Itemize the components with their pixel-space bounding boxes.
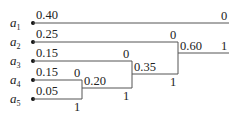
huffman-tree-diagram: a1 a2 a3 a4 a5 0.40 0.25 0.15 0.15 0.05 xyxy=(0,0,241,114)
tree-edges xyxy=(33,23,229,99)
bit-020-upper: 0 xyxy=(74,66,80,80)
symbol-a1: a1 xyxy=(10,15,21,32)
symbol-labels: a1 a2 a3 a4 a5 xyxy=(10,15,21,108)
prob-a4: 0.15 xyxy=(36,65,58,79)
bit-035-upper: 0 xyxy=(123,47,129,61)
bit-060-upper: 0 xyxy=(170,28,176,42)
prob-a5: 0.05 xyxy=(36,84,58,98)
merge-value-060: 0.60 xyxy=(180,39,202,53)
symbol-a4: a4 xyxy=(10,72,21,89)
symbol-a5: a5 xyxy=(10,91,21,108)
prob-a2: 0.25 xyxy=(36,27,58,41)
symbol-a2: a2 xyxy=(10,34,21,51)
symbol-a3: a3 xyxy=(10,53,21,70)
probabilities: 0.40 0.25 0.15 0.15 0.05 xyxy=(36,8,58,98)
prob-a1: 0.40 xyxy=(36,8,58,22)
bit-035-lower: 1 xyxy=(123,89,129,103)
bit-060-lower: 1 xyxy=(170,75,176,89)
bit-020-lower: 1 xyxy=(74,100,80,114)
merge-value-035: 0.35 xyxy=(134,60,156,74)
prob-a3: 0.15 xyxy=(36,46,58,60)
merge-values: 0.20 0.35 0.60 xyxy=(84,39,202,88)
bit-root-lower: 1 xyxy=(221,39,227,53)
merge-value-020: 0.20 xyxy=(84,74,106,88)
bit-root-upper: 0 xyxy=(221,9,227,23)
